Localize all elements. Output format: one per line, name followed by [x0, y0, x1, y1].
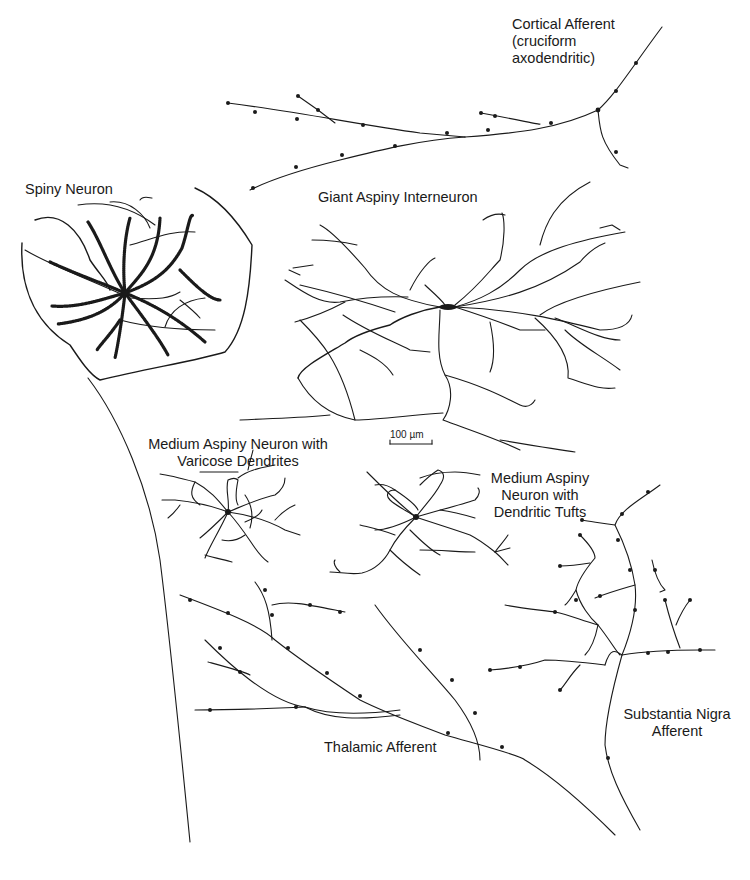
- thalamic-afferent-drawing: [180, 582, 615, 835]
- spiny-neuron-drawing: [22, 188, 252, 380]
- label-line: Varicose Dendrites: [135, 453, 341, 470]
- scale-bar-label: 100 µm: [390, 429, 424, 440]
- label-thalamic-afferent: Thalamic Afferent: [324, 739, 437, 756]
- label-line: Dendritic Tufts: [480, 504, 600, 521]
- label-line: (cruciform: [512, 33, 615, 50]
- label-giant-aspiny-interneuron: Giant Aspiny Interneuron: [318, 189, 478, 206]
- label-line: Cortical Afferent: [512, 16, 615, 33]
- label-spiny-neuron: Spiny Neuron: [25, 181, 113, 198]
- label-cortical-afferent: Cortical Afferent (cruciform axodendriti…: [512, 16, 615, 67]
- label-substantia-nigra-afferent: Substantia Nigra Afferent: [612, 706, 742, 740]
- label-line: Medium Aspiny: [480, 470, 600, 487]
- label-line: Neuron with: [480, 487, 600, 504]
- label-line: Medium Aspiny Neuron with: [135, 436, 341, 453]
- scale-bar: [390, 440, 432, 444]
- label-line: Afferent: [612, 723, 742, 740]
- label-medium-aspiny-varicose: Medium Aspiny Neuron with Varicose Dendr…: [135, 436, 341, 470]
- label-line: Substantia Nigra: [612, 706, 742, 723]
- substantia-nigra-afferent-drawing: [488, 485, 715, 830]
- neuron-morphology-figure: Cortical Afferent (cruciform axodendriti…: [0, 0, 750, 880]
- label-line: axodendritic): [512, 50, 615, 67]
- label-medium-aspiny-tufts: Medium Aspiny Neuron with Dendritic Tuft…: [480, 470, 600, 521]
- giant-aspiny-interneuron-drawing: [240, 182, 640, 452]
